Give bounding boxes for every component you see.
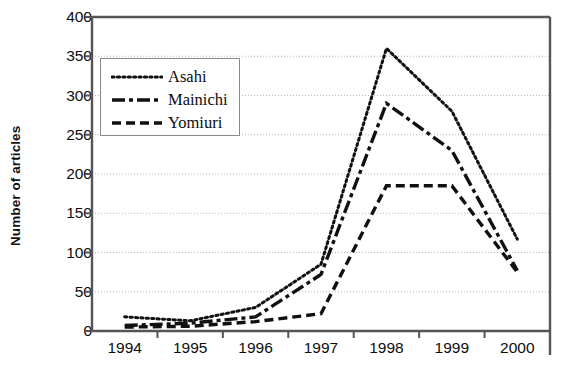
legend: AsahiMainichiYomiuri: [100, 58, 240, 136]
legend-item-mainichi: Mainichi: [111, 89, 228, 111]
plot-area: [0, 0, 572, 367]
x-tick-label: 1997: [289, 340, 353, 356]
x-tick-label: 1995: [158, 340, 222, 356]
legend-item-yomiuri: Yomiuri: [111, 112, 222, 134]
x-tick-label: 1994: [93, 340, 157, 356]
legend-label: Mainichi: [168, 92, 228, 109]
line-chart: Number of articles 050100150200250300350…: [0, 0, 572, 367]
legend-label: Yomiuri: [168, 115, 222, 132]
x-tick-label: 1996: [224, 340, 288, 356]
legend-label: Asahi: [168, 69, 207, 86]
x-tick-label: 1998: [354, 340, 418, 356]
legend-line-sample: [111, 70, 163, 84]
x-tick-label: 2000: [485, 340, 549, 356]
legend-line-sample: [111, 116, 163, 130]
series-line-yomiuri: [125, 186, 518, 327]
legend-line-sample: [111, 93, 163, 107]
x-tick-label: 1999: [420, 340, 484, 356]
legend-item-asahi: Asahi: [111, 66, 207, 88]
